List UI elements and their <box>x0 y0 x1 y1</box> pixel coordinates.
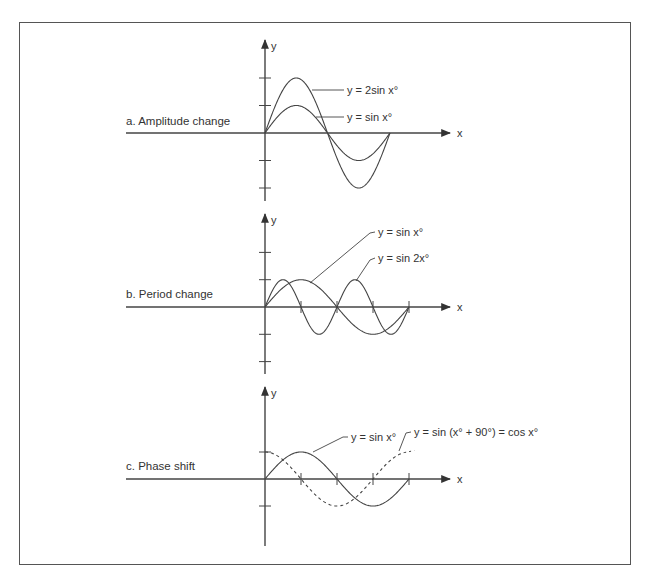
curve-label: y = sin (x° + 90°) = cos x° <box>414 426 538 438</box>
panel-b: y = sin x°y = sin 2x° b. Period change y… <box>126 214 463 374</box>
callout-leader <box>356 258 375 281</box>
panel-a-x-label: x <box>457 127 463 139</box>
curve-label: y = 2sin x° <box>347 84 398 96</box>
panel-c-curves <box>265 451 414 506</box>
callout-leader <box>310 232 375 283</box>
panel-a-title: a. Amplitude change <box>126 115 230 127</box>
panel-c-callouts: y = sin x°y = sin (x° + 90°) = cos x° <box>313 426 538 452</box>
panel-b-callouts: y = sin x°y = sin 2x° <box>310 226 429 283</box>
callout-leader <box>399 432 411 451</box>
trig-graphs-figure: y = 2sin x°y = sin x° a. Amplitude chang… <box>0 0 649 586</box>
curve-label: y = sin x° <box>351 431 396 443</box>
panel-c-y-label: y <box>271 387 277 399</box>
panel-c-x-label: x <box>457 473 463 485</box>
callout-leader <box>313 437 348 452</box>
curve-label: y = sin 2x° <box>378 252 429 264</box>
panel-c: y = sin x°y = sin (x° + 90°) = cos x° c.… <box>126 387 538 546</box>
panel-b-x-label: x <box>457 301 463 313</box>
panel-a-callouts: y = 2sin x°y = sin x° <box>312 84 398 123</box>
curve-label: y = sin x° <box>378 226 423 238</box>
panel-b-y-label: y <box>271 214 277 226</box>
panel-a: y = 2sin x°y = sin x° a. Amplitude chang… <box>126 40 463 201</box>
curve-label: y = sin x° <box>347 111 392 123</box>
curve-continuation <box>404 451 414 453</box>
panel-b-title: b. Period change <box>126 288 213 300</box>
panel-c-title: c. Phase shift <box>126 460 196 472</box>
panel-a-y-label: y <box>271 40 277 52</box>
